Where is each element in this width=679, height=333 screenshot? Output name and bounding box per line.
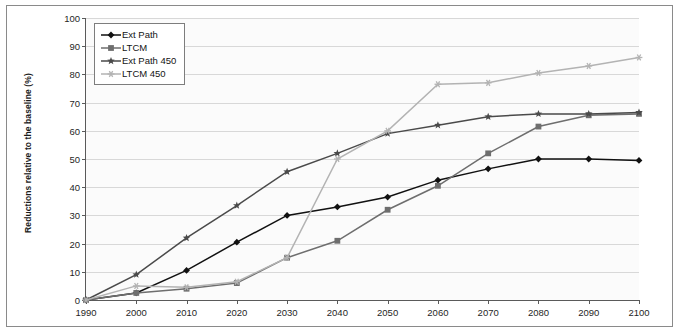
x-tick-label: 2060 bbox=[427, 307, 448, 318]
x-tick-mark bbox=[136, 300, 137, 304]
data-point-asterisk bbox=[585, 63, 592, 69]
y-tick-label: 10 bbox=[69, 266, 80, 277]
x-tick-label: 2020 bbox=[226, 307, 247, 318]
data-point-star bbox=[484, 113, 492, 120]
x-tick-mark bbox=[237, 300, 238, 304]
x-tick-label: 2000 bbox=[126, 307, 147, 318]
series-line bbox=[86, 159, 639, 300]
data-point-diamond bbox=[334, 204, 341, 211]
x-tick-mark bbox=[538, 300, 539, 304]
data-point-diamond bbox=[485, 165, 492, 172]
series-line bbox=[86, 112, 639, 300]
legend-label: LTCM 450 bbox=[122, 68, 166, 80]
series-2 bbox=[82, 108, 643, 303]
legend-item-1[interactable]: LTCM bbox=[100, 41, 176, 54]
legend-marker-asterisk-icon bbox=[100, 68, 122, 80]
x-tick-label: 2050 bbox=[377, 307, 398, 318]
legend-label: Ext Path 450 bbox=[122, 55, 176, 67]
data-point-asterisk bbox=[133, 283, 140, 289]
y-tick-label: 60 bbox=[69, 125, 80, 136]
data-point-square bbox=[108, 45, 114, 51]
chart-figure: Reductions relative to the baseline (%) … bbox=[0, 0, 679, 333]
data-point-diamond bbox=[233, 239, 240, 246]
y-tick-label: 70 bbox=[69, 97, 80, 108]
x-tick-label: 2100 bbox=[628, 307, 649, 318]
data-point-diamond bbox=[585, 156, 592, 163]
data-point-square bbox=[536, 124, 542, 130]
data-point-diamond bbox=[183, 267, 190, 274]
x-tick-label: 2090 bbox=[578, 307, 599, 318]
x-tick-label: 2070 bbox=[478, 307, 499, 318]
data-point-diamond bbox=[384, 194, 391, 201]
data-point-asterisk bbox=[636, 55, 643, 61]
y-tick-label: 0 bbox=[75, 295, 80, 306]
data-point-diamond bbox=[435, 177, 442, 184]
data-point-asterisk bbox=[535, 70, 542, 76]
series-1 bbox=[83, 111, 642, 303]
legend-item-3[interactable]: LTCM 450 bbox=[100, 67, 176, 80]
y-tick-label: 50 bbox=[69, 154, 80, 165]
y-tick-label: 90 bbox=[69, 41, 80, 52]
legend-label: Ext Path bbox=[122, 29, 158, 41]
legend-marker-square-icon bbox=[100, 42, 122, 54]
y-tick-label: 30 bbox=[69, 210, 80, 221]
legend-label: LTCM bbox=[122, 42, 147, 54]
y-tick-label: 80 bbox=[69, 69, 80, 80]
series-3 bbox=[83, 55, 643, 303]
x-tick-label: 2030 bbox=[277, 307, 298, 318]
y-tick-label: 100 bbox=[64, 13, 80, 24]
legend-item-0[interactable]: Ext Path bbox=[100, 28, 176, 41]
data-point-square bbox=[385, 207, 391, 213]
x-tick-label: 2040 bbox=[327, 307, 348, 318]
data-point-square bbox=[435, 183, 441, 189]
x-tick-mark bbox=[438, 300, 439, 304]
legend-item-2[interactable]: Ext Path 450 bbox=[100, 54, 176, 67]
x-tick-mark bbox=[187, 300, 188, 304]
data-point-star bbox=[434, 121, 442, 128]
x-tick-mark bbox=[589, 300, 590, 304]
x-tick-mark bbox=[639, 300, 640, 304]
data-point-square bbox=[334, 238, 340, 244]
y-axis-title: Reductions relative to the baseline (%) bbox=[23, 53, 33, 253]
x-tick-mark bbox=[287, 300, 288, 304]
legend-marker-star-icon bbox=[100, 55, 122, 67]
series-line bbox=[86, 57, 639, 300]
y-tick-label: 20 bbox=[69, 238, 80, 249]
data-point-asterisk bbox=[485, 80, 492, 86]
data-point-star bbox=[535, 110, 543, 117]
x-tick-mark bbox=[388, 300, 389, 304]
x-tick-label: 2080 bbox=[528, 307, 549, 318]
x-tick-label: 2010 bbox=[176, 307, 197, 318]
legend-marker-diamond-icon bbox=[100, 29, 122, 41]
series-line bbox=[86, 114, 639, 300]
x-tick-mark bbox=[488, 300, 489, 304]
data-point-diamond bbox=[284, 212, 291, 219]
data-point-diamond bbox=[108, 31, 115, 38]
data-point-square bbox=[485, 150, 491, 156]
data-point-star bbox=[107, 57, 115, 64]
x-tick-mark bbox=[337, 300, 338, 304]
data-point-asterisk bbox=[108, 71, 115, 77]
y-tick-label: 40 bbox=[69, 182, 80, 193]
data-point-square bbox=[133, 290, 139, 296]
data-point-diamond bbox=[535, 156, 542, 163]
data-point-star bbox=[334, 149, 342, 156]
data-point-diamond bbox=[636, 157, 643, 164]
plot-wrapper: Reductions relative to the baseline (%) … bbox=[0, 0, 679, 333]
chart-legend: Ext PathLTCMExt Path 450LTCM 450 bbox=[94, 23, 185, 85]
series-0 bbox=[83, 156, 643, 304]
x-tick-label: 1990 bbox=[75, 307, 96, 318]
